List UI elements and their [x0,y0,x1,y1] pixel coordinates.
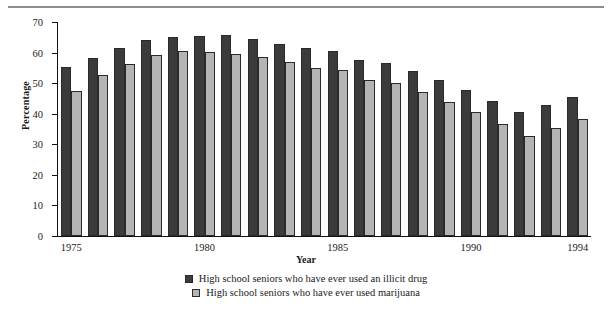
bar-marijuana [151,55,161,236]
bar-marijuana [311,68,321,236]
bar-group [484,22,511,236]
bar-illicit-drug [194,36,204,236]
bar-group [245,22,272,236]
bar-group [298,22,325,236]
bar-illicit-drug [61,67,71,236]
bar-group [351,22,378,236]
legend-label: High school seniors who have ever used m… [206,287,420,298]
bar-group [538,22,565,236]
legend-label: High school seniors who have ever used a… [199,273,427,284]
bar-group [431,22,458,236]
bar-illicit-drug [328,51,338,236]
bar-group [404,22,431,236]
y-tick-label: 50 [33,78,44,89]
bar-group [564,22,591,236]
bar-illicit-drug [487,101,497,236]
bar-marijuana [524,136,534,236]
y-tick-label: 60 [33,47,44,58]
y-tick-label: 20 [33,169,44,180]
y-tick-label: 10 [33,200,44,211]
bar-marijuana [71,91,81,236]
bar-marijuana [258,57,268,236]
bar-marijuana [391,83,401,236]
bar-illicit-drug [434,80,444,236]
bar-group [165,22,192,236]
y-axis-title: Percentage [20,51,31,161]
x-tick-label: 1990 [461,242,482,253]
bar-group [58,22,85,236]
bar-marijuana [338,70,348,236]
x-tick-label: 1975 [61,242,82,253]
legend-item: High school seniors who have ever used a… [0,272,612,286]
bar-group [218,22,245,236]
bar-illicit-drug [88,58,98,236]
bar-group [191,22,218,236]
bar-illicit-drug [514,112,524,236]
bar-illicit-drug [301,48,311,236]
bar-illicit-drug [381,63,391,236]
plot-area: 010203040506070 19751980198519901994 [58,22,591,236]
y-tick-label: 0 [38,231,43,242]
bar-marijuana [418,92,428,236]
x-tick-label: 1994 [567,242,588,253]
bar-illicit-drug [354,60,364,236]
bar-illicit-drug [274,44,284,236]
bar-group [325,22,352,236]
bar-marijuana [125,64,135,236]
x-tick-label: 1980 [194,242,215,253]
x-tick-label: 1985 [327,242,348,253]
bar-marijuana [471,112,481,236]
bar-marijuana [231,54,241,236]
bar-illicit-drug [141,40,151,236]
y-tick-label: 70 [33,17,44,28]
top-rule-divider [8,6,604,8]
y-tick-label: 40 [33,108,44,119]
bar-marijuana [178,51,188,236]
bar-group [271,22,298,236]
x-axis-line [52,236,591,237]
bar-illicit-drug [408,71,418,236]
legend-item: High school seniors who have ever used m… [0,286,612,300]
figure-container: Percentage 010203040506070 1975198019851… [0,0,612,309]
bar-group [458,22,485,236]
legend-swatch-icon [192,289,200,297]
bar-illicit-drug [221,35,231,236]
bar-illicit-drug [248,39,258,236]
bar-group [138,22,165,236]
bar-illicit-drug [567,97,577,236]
bar-marijuana [364,80,374,236]
bar-marijuana [578,119,588,236]
bar-illicit-drug [461,90,471,236]
y-tick: 0 [52,236,58,237]
y-tick-label: 30 [33,139,44,150]
bar-marijuana [285,62,295,236]
chart-legend: High school seniors who have ever used a… [0,272,612,300]
bar-illicit-drug [168,37,178,236]
bar-group [85,22,112,236]
legend-swatch-icon [185,275,193,283]
bar-illicit-drug [541,105,551,236]
bar-group [111,22,138,236]
bar-marijuana [98,75,108,236]
bar-marijuana [444,102,454,236]
bar-marijuana [551,128,561,236]
bar-illicit-drug [114,48,124,236]
x-axis-title: Year [0,254,612,265]
bar-series-layer [58,22,591,236]
bar-group [378,22,405,236]
bar-group [511,22,538,236]
bar-marijuana [498,124,508,236]
bar-marijuana [205,52,215,236]
